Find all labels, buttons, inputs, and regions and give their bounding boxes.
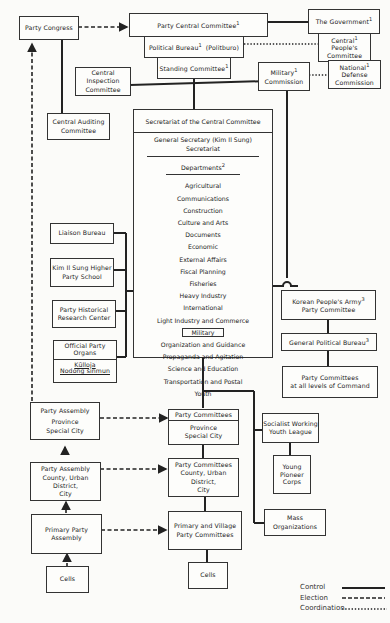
party-central-committee-box: Party Central Committee1 bbox=[129, 13, 268, 37]
secretariat-header: Secretariat of the Central Committee bbox=[134, 110, 272, 133]
department-item: External Affairs bbox=[134, 254, 272, 266]
department-item: Fisheries bbox=[134, 278, 272, 290]
department-item: Culture and Arts bbox=[134, 217, 272, 229]
party-committees-province-box: Party Committees Province Special City bbox=[168, 409, 239, 445]
kim-il-sung-party-school-box: Kim Il Sung Higher Party School bbox=[50, 258, 114, 287]
department-item: Agricultural bbox=[134, 180, 272, 192]
the-government-box: The Government1 bbox=[308, 9, 380, 34]
standing-committee-box: Standing Committee1 bbox=[157, 57, 231, 79]
party-congress-label: Party Congress bbox=[25, 24, 73, 32]
department-item: Youth bbox=[134, 388, 272, 400]
department-item: Construction bbox=[134, 205, 272, 217]
the-government-label: The Government1 bbox=[316, 16, 373, 26]
party-committees-command-box: Party Committees at all levels of Comman… bbox=[282, 366, 378, 398]
political-bureau-label: Political Bureau1 (Politburo) bbox=[149, 42, 239, 52]
cells-left-box: Cells bbox=[46, 566, 89, 593]
department-item: Science and Education bbox=[134, 363, 272, 375]
central-peoples-committee-box: Central1 People's Committee bbox=[318, 33, 371, 62]
mass-organizations-box: Mass Organizations bbox=[264, 509, 326, 536]
kpa-party-committee-box: Korean People's Army3 Party Committee bbox=[281, 290, 376, 320]
department-item: Propaganda and Agitation bbox=[134, 351, 272, 363]
central-inspection-committee-box: Central Inspection Committee bbox=[75, 67, 131, 96]
party-assembly-county-box: Party Assembly County, Urban District,Ci… bbox=[30, 462, 101, 501]
party-historical-research-center-box: Party Historical Research Center bbox=[52, 300, 116, 328]
secretariat-label: Secretariat bbox=[134, 145, 272, 154]
secretariat-box: Secretariat of the Central Committee Gen… bbox=[133, 109, 273, 358]
political-bureau-box: Political Bureau1 (Politburo) bbox=[144, 36, 244, 58]
standing-committee-label: Standing Committee1 bbox=[160, 63, 229, 73]
party-central-committee-label: Party Central Committee1 bbox=[157, 20, 239, 30]
department-item: Light Industry and Commerce bbox=[134, 315, 272, 327]
legend-coordination: Coordination bbox=[300, 603, 345, 614]
legend-control: Control bbox=[300, 582, 345, 593]
general-political-bureau-box: General Political Bureau3 bbox=[281, 333, 377, 351]
department-item: Transportation and Postal bbox=[134, 376, 272, 388]
departments-heading: Departments2 bbox=[134, 160, 272, 171]
general-secretary: General Secretary (Kim Il Sung) bbox=[134, 136, 272, 145]
party-congress-box: Party Congress bbox=[19, 16, 79, 40]
department-item: Economic bbox=[134, 241, 272, 253]
young-pioneer-corps-box: Young Pioneer Corps bbox=[273, 455, 311, 494]
party-committees-county-box: Party Committees County, Urban District,… bbox=[168, 458, 239, 497]
department-item: International bbox=[134, 302, 272, 314]
primary-village-committees-box: Primary and Village Party Committees bbox=[168, 511, 242, 550]
department-item: Organization and Guidance bbox=[134, 339, 272, 351]
liaison-bureau-box: Liaison Bureau bbox=[50, 223, 114, 244]
socialist-working-youth-league-box: Socialist Working Youth League bbox=[262, 413, 319, 443]
party-assembly-province-box: Party Assembly ProvinceSpecial City bbox=[30, 402, 100, 440]
divider bbox=[147, 156, 259, 157]
primary-party-assembly-box: Primary Party Assembly bbox=[31, 514, 102, 554]
divider bbox=[166, 174, 240, 175]
departments-list: Agricultural Communications Construction… bbox=[134, 180, 272, 400]
nodong-sinmun-link: Nodong sinmun bbox=[60, 368, 110, 375]
legend-election: Election bbox=[300, 593, 345, 604]
cells-right-box: Cells bbox=[188, 562, 228, 589]
department-item-military: Military bbox=[134, 327, 272, 339]
legend: Control Election Coordination bbox=[300, 582, 345, 614]
department-item: Fiscal Planning bbox=[134, 266, 272, 278]
department-item: Communications bbox=[134, 193, 272, 205]
military-commission-box: Military1 Commission bbox=[258, 62, 310, 91]
central-auditing-committee-box: Central Auditing Committee bbox=[47, 113, 110, 140]
department-item: Documents bbox=[134, 229, 272, 241]
official-party-organs-box: Official Party Organs Kŭlloja Nodong sin… bbox=[53, 340, 117, 383]
national-defense-commission-box: National1 Defense Commission bbox=[328, 60, 381, 89]
department-item: Heavy Industry bbox=[134, 290, 272, 302]
